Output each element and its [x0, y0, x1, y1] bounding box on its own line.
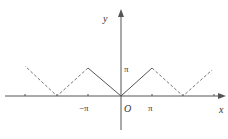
dashed-line-series-right [152, 68, 212, 96]
x-axis-arrow-icon [218, 93, 226, 99]
x-tick-pi-label: π [148, 103, 153, 113]
y-axis-arrow-icon [118, 9, 124, 17]
y-tick-pi-label: π [124, 64, 129, 74]
x-tick-neg-pi-label: −π [79, 103, 89, 113]
function-graph: y π −π O π x [0, 0, 228, 139]
solid-line-series [88, 68, 152, 96]
y-axis-label: y [102, 13, 108, 24]
origin-label: O [124, 103, 131, 114]
x-axis-label: x [218, 104, 224, 115]
dashed-line-series-left [25, 66, 88, 96]
